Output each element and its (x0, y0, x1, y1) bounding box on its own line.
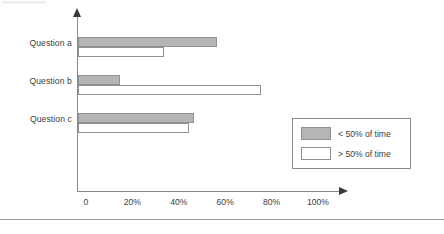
legend-label: < 50% of time (338, 129, 391, 139)
bar-low (78, 37, 217, 47)
x-axis-line (77, 191, 341, 192)
bar-high (78, 123, 189, 133)
bar-low (78, 113, 194, 123)
x-axis-tick-label: 0 (84, 197, 89, 207)
x-axis-tick-label: 20% (124, 197, 141, 207)
legend-item-low: < 50% of time (301, 127, 391, 140)
x-axis-tick-label: 60% (217, 197, 234, 207)
y-axis-category-label: Question b (4, 76, 72, 86)
page-artifact (2, 1, 46, 4)
chart-figure: Question aQuestion bQuestion c 020%40%60… (0, 0, 444, 234)
category-label-slot: Question b (0, 76, 72, 88)
x-axis-tick-label: 40% (170, 197, 187, 207)
category-label-slot: Question a (0, 38, 72, 50)
legend-item-high: > 50% of time (301, 147, 391, 160)
x-axis-tick-label: 80% (263, 197, 280, 207)
bar-high (78, 85, 261, 95)
legend-swatch-icon (301, 147, 331, 160)
legend-swatch-icon (301, 127, 331, 140)
y-axis-category-label: Question a (4, 38, 72, 48)
legend-label: > 50% of time (338, 149, 391, 159)
x-axis-tick-label: 100% (307, 197, 329, 207)
bar-high (78, 47, 164, 57)
x-axis-arrow-icon (339, 187, 348, 195)
category-label-slot: Question c (0, 114, 72, 126)
footer-divider (0, 219, 444, 220)
y-axis-category-label: Question c (4, 114, 72, 124)
chart-legend: < 50% of time > 50% of time (292, 118, 411, 169)
bar-low (78, 75, 120, 85)
y-axis-arrow-icon (73, 8, 81, 17)
